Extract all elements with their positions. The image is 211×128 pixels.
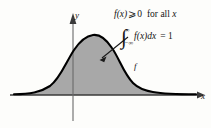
x-axis-arrowhead: [197, 91, 205, 98]
figure-canvas: [0, 0, 211, 128]
y-axis-arrowhead: [70, 13, 77, 24]
shaded-area-under-curve: [14, 35, 196, 95]
probability-density-figure: y x f f(x)⩾0for all x ∫∞−∞f(x)dx= 1: [0, 0, 211, 128]
